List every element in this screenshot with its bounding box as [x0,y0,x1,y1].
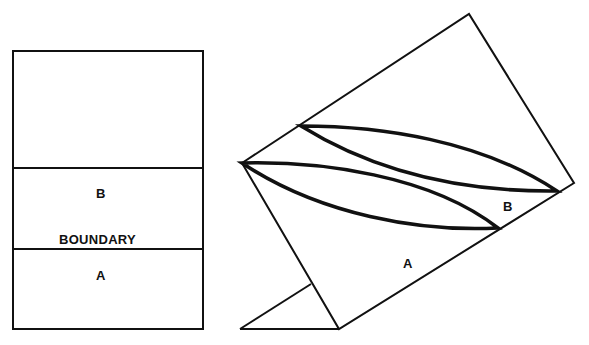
right-label-a: A [403,256,413,271]
left-layer-diagram [13,51,203,329]
left-label-boundary: BOUNDARY [59,232,136,247]
upper-lens [301,126,557,191]
left-label-b: B [96,186,106,201]
right-tilted-diagram [240,14,574,329]
lower-lens [242,163,498,229]
base-triangle-edge [240,284,311,329]
left-outer-rect [13,51,203,329]
left-label-a: A [96,268,106,283]
diagram-canvas [0,0,589,345]
right-label-b: B [503,199,513,214]
